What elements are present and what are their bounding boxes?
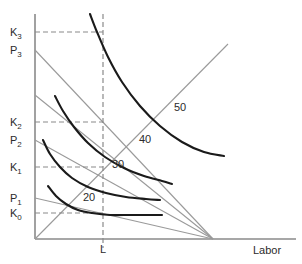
- isoquant-label-20: 20: [83, 192, 95, 203]
- expansion-path-group: [35, 44, 228, 239]
- y-axis-label-p2: P2: [10, 135, 22, 149]
- expansion-path-line: [35, 44, 228, 239]
- y-axis-label-k3: K3: [10, 27, 22, 41]
- isocost-line-p2: [35, 140, 213, 239]
- isoquant-label-30: 30: [112, 159, 124, 170]
- isoquant-diagram-svg: [0, 0, 302, 264]
- isoquant-curve-40: [55, 96, 172, 184]
- x-axis-tick-label-L: L: [100, 244, 106, 255]
- y-axis-label-p3: P3: [10, 45, 22, 59]
- figure-canvas: K3 P3 K2 P2 K1 P1 K0 L 20 30 40 50 Labor: [0, 0, 302, 264]
- isocost-line-p1: [35, 198, 213, 239]
- isoquant-curve-50: [90, 14, 224, 156]
- y-axis-label-p1: P1: [10, 193, 22, 207]
- y-axis-label-k2: K2: [10, 117, 22, 131]
- isoquants-group: [43, 14, 224, 215]
- x-axis-title: Labor: [253, 245, 281, 256]
- y-axis-label-k1: K1: [10, 162, 22, 176]
- y-axis-label-k0: K0: [10, 208, 22, 222]
- isoquant-label-50: 50: [174, 102, 186, 113]
- isoquant-label-40: 40: [139, 134, 151, 145]
